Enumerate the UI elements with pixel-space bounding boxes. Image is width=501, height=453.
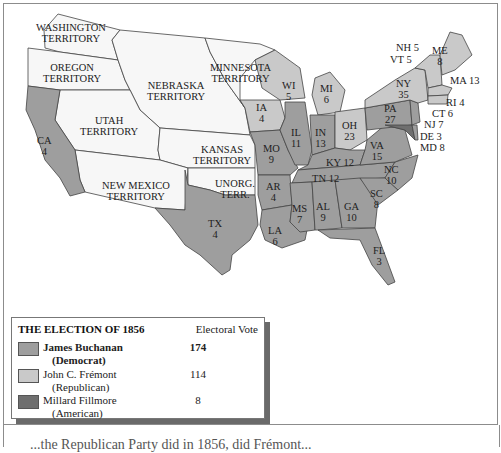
label-state-ct: CT 6 xyxy=(432,108,453,119)
label-state-ky: KY 12 xyxy=(326,157,354,168)
label-state-nh: NH 5 xyxy=(396,42,419,53)
democrat-swatch xyxy=(18,342,39,356)
label-state-ri: RI 4 xyxy=(446,97,464,108)
legend-candidate: John C. Frémont(Republican) xyxy=(43,368,117,394)
legend-votes: 114 xyxy=(178,368,218,380)
state-nj xyxy=(410,100,420,125)
label-state-md: MD 8 xyxy=(420,142,445,153)
label-state-ma: MA 13 xyxy=(450,75,479,86)
republican-swatch xyxy=(18,369,39,383)
label-state-tx: TX4 xyxy=(208,218,222,240)
label-state-mo: MO9 xyxy=(263,143,280,165)
label-state-wi: WI5 xyxy=(282,80,295,102)
label-state-ca: CA4 xyxy=(37,135,52,157)
state-ct-ri xyxy=(428,95,448,104)
label-state-nc: NC10 xyxy=(384,164,399,186)
label-state-ar: AR4 xyxy=(266,181,281,203)
label-state-me: ME8 xyxy=(432,45,448,67)
label-state-ms: MS7 xyxy=(292,203,307,225)
label-state-il: IL11 xyxy=(291,127,301,149)
label-utah-territory: UTAHTERRITORY xyxy=(80,115,138,137)
label-state-al: AL9 xyxy=(316,201,330,223)
legend-candidate: Millard Fillmore(American) xyxy=(43,394,117,420)
label-state-va: VA15 xyxy=(370,140,384,162)
legend-votes: 174 xyxy=(178,341,218,353)
label-state-ia: IA4 xyxy=(256,102,267,124)
legend-row-american: Millard Fillmore(American) 8 xyxy=(18,394,258,422)
label-new-mexico-territory: NEW MEXICOTERRITORY xyxy=(102,180,170,202)
label-state-tn: TN 12 xyxy=(312,173,339,184)
label-minnesota-territory: MINNESOTATERRITORY xyxy=(210,62,271,84)
label-state-ny: NY35 xyxy=(396,78,411,100)
label-oregon-territory: OREGONTERRITORY xyxy=(43,62,101,84)
label-state-la: LA6 xyxy=(268,225,282,247)
label-state-vt: VT 5 xyxy=(390,54,412,65)
label-state-pa: PA27 xyxy=(384,103,396,125)
label-state-nj: NJ 7 xyxy=(424,119,444,130)
label-state-oh: OH23 xyxy=(342,120,357,142)
label-state-fl: FL3 xyxy=(373,245,385,267)
label-kansas-territory: KANSASTERRITORY xyxy=(193,144,251,166)
american-swatch xyxy=(18,395,39,409)
caption-text: ...the Republican Party did in 1856, did… xyxy=(30,437,312,453)
label-state-in: IN13 xyxy=(315,127,326,149)
label-washington-territory: WASHINGTONTERRITORY xyxy=(36,22,106,44)
label-state-ga: GA10 xyxy=(344,201,359,223)
label-state-sc: SC8 xyxy=(370,188,383,210)
label-nebraska-territory: NEBRASKATERRITORY xyxy=(147,80,205,102)
legend-title: THE ELECTION OF 1856 xyxy=(18,323,144,335)
legend-votes: 8 xyxy=(178,394,218,406)
legend-row-republican: John C. Frémont(Republican) 114 xyxy=(18,368,258,396)
legend-candidate: James Buchanan(Democrat) xyxy=(43,341,123,367)
label-unorganized-territory: UNORG.TERR. xyxy=(215,178,255,200)
label-state-mi: MI6 xyxy=(320,83,333,105)
legend-box: THE ELECTION OF 1856 Electoral Vote Jame… xyxy=(11,317,265,419)
legend-row-democrat: James Buchanan(Democrat) 174 xyxy=(18,341,258,369)
legend-column-header: Electoral Vote xyxy=(196,323,258,335)
label-state-de: DE 3 xyxy=(420,131,442,142)
